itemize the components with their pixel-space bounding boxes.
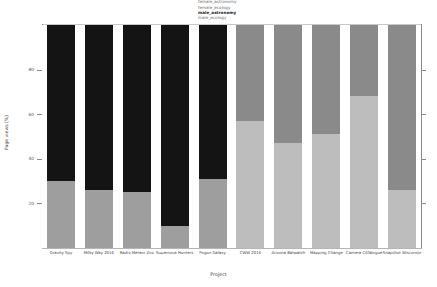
bar-segment-male_ecology[interactable] [274,25,302,143]
bar-astronomy[interactable] [85,25,113,248]
bar-segment-female_ecology[interactable] [350,96,378,248]
bar-segment-male_ecology[interactable] [388,25,416,190]
bar-astronomy[interactable] [47,25,75,248]
bar-ecology[interactable] [236,25,264,248]
bar-segment-male_ecology[interactable] [350,25,378,96]
x-axis-tick-label: Snapshot Wisconsin [379,251,425,255]
bar-segment-male_astronomy[interactable] [199,25,227,179]
y-axis-tick-label: 40 [4,156,34,161]
bar-segment-male_astronomy[interactable] [161,25,189,226]
axis-spine-right [421,24,422,249]
y-axis-tick-label: 80 [4,67,34,72]
axis-spine-bottom [42,248,422,249]
bar-segment-female_astronomy[interactable] [47,181,75,248]
bar-segment-female_astronomy[interactable] [85,190,113,248]
y-axis-tick-label: 60 [4,112,34,117]
y-axis-tick-right [421,114,426,115]
bar-ecology[interactable] [350,25,378,248]
y-axis-tick-right [421,70,426,71]
bar-astronomy[interactable] [161,25,189,248]
y-axis-title: Page views (%) [4,83,9,183]
bar-segment-female_ecology[interactable] [274,143,302,248]
bar-segment-male_astronomy[interactable] [123,25,151,192]
y-axis-tick-right [421,159,426,160]
bar-segment-female_ecology[interactable] [388,190,416,248]
bar-segment-female_ecology[interactable] [312,134,340,248]
bar-segment-female_astronomy[interactable] [161,226,189,248]
bar-segment-male_astronomy[interactable] [85,25,113,190]
bar-segment-male_ecology[interactable] [312,25,340,134]
y-axis-tick-label: 20 [4,201,34,206]
bar-segment-female_astronomy[interactable] [123,192,151,248]
x-axis-title: Project [0,272,437,277]
chart-figure: female_astronomyfemale_ecologymale_astro… [0,0,437,287]
bar-ecology[interactable] [388,25,416,248]
chart-legend: female_astronomyfemale_ecologymale_astro… [198,0,318,21]
y-axis-tick-right [421,203,426,204]
bar-segment-female_astronomy[interactable] [199,179,227,248]
bar-segment-male_astronomy[interactable] [47,25,75,181]
bar-segment-female_ecology[interactable] [236,121,264,248]
bar-astronomy[interactable] [199,25,227,248]
legend-entry-label: male_ecology [198,16,226,20]
bar-segment-male_ecology[interactable] [236,25,264,121]
bar-ecology[interactable] [274,25,302,248]
legend-entry[interactable]: male_ecology [198,16,226,21]
bar-ecology[interactable] [312,25,340,248]
plot-area [42,25,421,248]
bar-astronomy[interactable] [123,25,151,248]
